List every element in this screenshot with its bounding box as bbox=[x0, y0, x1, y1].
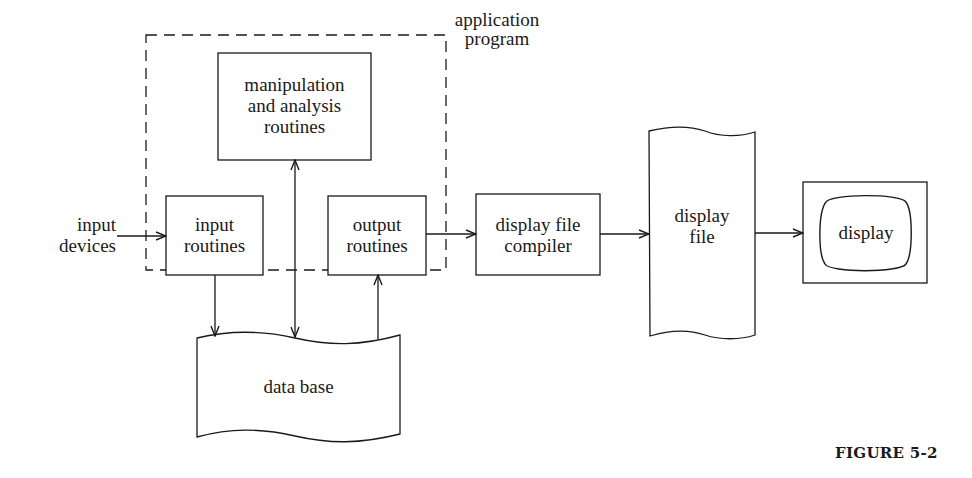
display-line1: display bbox=[820, 222, 912, 243]
manipulation-routines-label: manipulation and analysis routines bbox=[218, 74, 371, 137]
manipulation-line1: manipulation bbox=[218, 74, 371, 95]
compiler-line1: display file bbox=[476, 214, 600, 235]
input-devices-label: input devices bbox=[50, 214, 116, 256]
input-routines-label: input routines bbox=[166, 214, 263, 256]
input-routines-line1: input bbox=[166, 214, 263, 235]
output-routines-line1: output bbox=[328, 214, 426, 235]
application-program-label: application program bbox=[452, 10, 542, 48]
database-line1: data base bbox=[197, 376, 400, 397]
input-routines-line2: routines bbox=[166, 235, 263, 256]
program-label-line2: program bbox=[452, 29, 542, 48]
input-devices-line1: input bbox=[50, 214, 116, 235]
display-file-label: display file bbox=[649, 205, 755, 247]
application-label-line1: application bbox=[452, 10, 542, 29]
display-label: display bbox=[820, 222, 912, 243]
display-file-line2: file bbox=[649, 226, 755, 247]
compiler-line2: compiler bbox=[476, 235, 600, 256]
display-file-compiler-label: display file compiler bbox=[476, 214, 600, 256]
manipulation-line2: and analysis bbox=[218, 95, 371, 116]
figure-caption: FIGURE 5-2 bbox=[835, 444, 938, 462]
database-label: data base bbox=[197, 376, 400, 397]
output-routines-label: output routines bbox=[328, 214, 426, 256]
output-routines-line2: routines bbox=[328, 235, 426, 256]
input-devices-line2: devices bbox=[50, 235, 116, 256]
manipulation-line3: routines bbox=[218, 116, 371, 137]
display-file-line1: display bbox=[649, 205, 755, 226]
